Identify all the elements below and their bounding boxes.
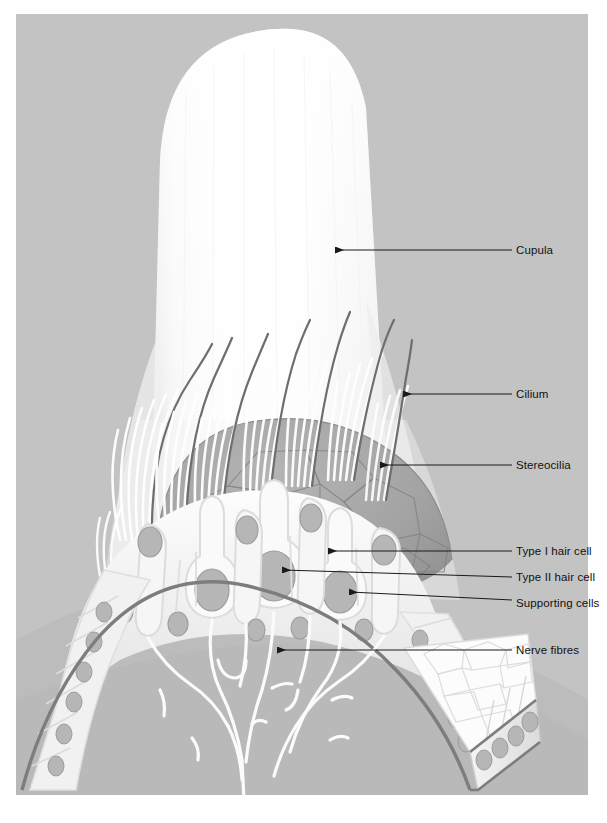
type-ii-hair-cell [298,498,326,614]
label-supporting-cells: Supporting cells [516,598,599,610]
type-ii-hair-cell [234,510,262,624]
label-nerve-fibres: Nerve fibres [516,645,579,657]
label-type-ii-hair-cell: Type II hair cell [516,572,595,584]
label-cupula: Cupula [516,245,553,257]
type-ii-hair-cell [372,528,400,634]
anatomy-illustration [0,0,607,823]
label-cilium: Cilium [516,389,549,401]
figure-canvas: Cupula Cilium Stereocilia Type I hair ce… [0,0,607,823]
label-stereocilia: Stereocilia [516,460,571,472]
label-type-i-hair-cell: Type I hair cell [516,546,592,558]
